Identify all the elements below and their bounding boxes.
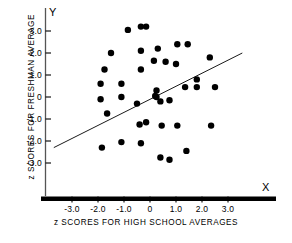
y-axis-title: z SCORES FOR FRESHMAN AVERAGE	[27, 20, 36, 180]
data-point	[143, 119, 149, 125]
data-point	[118, 139, 124, 145]
x-tick-label: 3.0	[222, 204, 234, 214]
data-point	[151, 58, 157, 64]
data-point	[99, 144, 105, 150]
plot-canvas	[0, 0, 292, 243]
data-point	[97, 81, 103, 87]
data-point	[208, 122, 214, 128]
data-point	[118, 94, 124, 100]
data-point	[185, 41, 191, 47]
data-point	[174, 122, 180, 128]
y-ticks-group	[46, 31, 52, 163]
data-point	[138, 48, 144, 54]
data-point	[143, 23, 149, 29]
data-point	[153, 87, 159, 93]
data-point	[207, 54, 213, 60]
data-point	[173, 61, 179, 67]
data-point	[101, 66, 107, 72]
data-point	[138, 140, 144, 146]
data-point	[136, 121, 142, 127]
data-point	[157, 154, 163, 160]
data-point	[108, 50, 114, 56]
data-point	[194, 84, 200, 90]
data-point	[155, 45, 161, 51]
data-point	[174, 41, 180, 47]
data-point	[182, 84, 188, 90]
data-point	[118, 81, 124, 87]
data-point	[104, 110, 110, 116]
data-point	[194, 76, 200, 82]
data-point	[183, 148, 189, 154]
x-tick-label: 0	[148, 204, 153, 214]
axes-group	[41, 8, 276, 201]
data-point	[159, 122, 165, 128]
y-axis-name-label: Y	[49, 6, 56, 18]
x-tick-label: 1.0	[170, 204, 182, 214]
x-axis-title: z SCORES FOR HIGH SCHOOL AVERAGES	[0, 218, 292, 227]
x-axis-line	[41, 197, 276, 202]
data-point	[138, 66, 144, 72]
data-point	[166, 157, 172, 163]
x-axis-name-label: X	[262, 181, 269, 193]
data-point	[212, 84, 218, 90]
data-point	[157, 98, 163, 104]
data-point	[134, 100, 140, 106]
scatter-plot-figure: Y X -3.0-2.0-1.001.02.03.0 3.02.01.00-1.…	[0, 0, 292, 243]
x-tick-label: -3.0	[64, 204, 79, 214]
data-point	[166, 97, 172, 103]
regression-line	[54, 53, 243, 148]
x-tick-label: -2.0	[90, 204, 105, 214]
data-point	[97, 96, 103, 102]
x-tick-label: 2.0	[196, 204, 208, 214]
data-point	[162, 59, 168, 65]
data-point	[125, 27, 131, 33]
data-points-group	[97, 23, 218, 163]
x-tick-label: -1.0	[116, 204, 131, 214]
